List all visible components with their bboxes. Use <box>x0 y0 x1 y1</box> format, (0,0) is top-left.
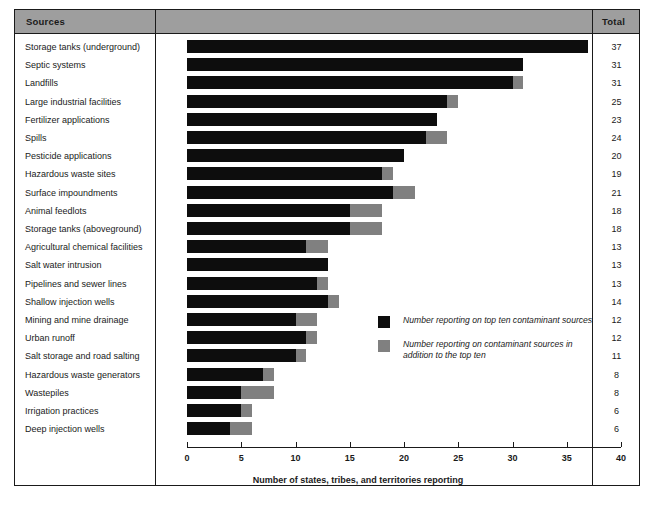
bar-segment-top-ten <box>187 167 382 180</box>
category-label: Large industrial facilities <box>25 97 153 107</box>
category-label: Storage tanks (aboveground) <box>25 224 153 234</box>
plot-area: Number reporting on top ten contaminant … <box>156 34 560 485</box>
bar-segment-additional <box>513 76 524 89</box>
x-axis-tick-label: 10 <box>290 453 300 463</box>
x-axis-title: Number of states, tribes, and territorie… <box>156 475 560 485</box>
category-label: Spills <box>25 133 153 143</box>
bar-segment-additional <box>296 313 318 326</box>
total-value: 8 <box>593 370 640 380</box>
x-axis-tick <box>187 442 188 447</box>
total-value: 20 <box>593 151 640 161</box>
x-axis-tick <box>296 442 297 447</box>
category-label: Landfills <box>25 78 153 88</box>
bar-segment-additional <box>350 222 383 235</box>
bar-segment-top-ten <box>187 386 241 399</box>
bar-segment-additional <box>296 349 307 362</box>
total-value: 13 <box>593 242 640 252</box>
bar-segment-top-ten <box>187 222 350 235</box>
total-value: 31 <box>593 78 640 88</box>
total-value: 21 <box>593 188 640 198</box>
total-value: 6 <box>593 406 640 416</box>
column-header-total: Total <box>602 16 625 27</box>
bar-segment-top-ten <box>187 313 296 326</box>
category-label: Wastepiles <box>25 388 153 398</box>
category-label: Fertilizer applications <box>25 115 153 125</box>
category-label: Surface impoundments <box>25 188 153 198</box>
total-value: 8 <box>593 388 640 398</box>
total-value: 25 <box>593 97 640 107</box>
bar-segment-top-ten <box>187 422 230 435</box>
category-label: Pesticide applications <box>25 151 153 161</box>
total-value: 11 <box>593 351 640 361</box>
x-axis-tick-label: 0 <box>184 453 189 463</box>
bar-segment-top-ten <box>187 349 296 362</box>
bar-segment-additional <box>393 186 415 199</box>
bar-segment-top-ten <box>187 240 306 253</box>
bar-segment-top-ten <box>187 204 350 217</box>
bar-segment-additional <box>447 95 458 108</box>
total-value: 18 <box>593 224 640 234</box>
bar-segment-top-ten <box>187 149 404 162</box>
x-axis-tick-label: 20 <box>399 453 409 463</box>
category-label: Hazardous waste sites <box>25 169 153 179</box>
bar-segment-top-ten <box>187 404 241 417</box>
x-axis-tick-label: 35 <box>562 453 572 463</box>
total-value: 14 <box>593 297 640 307</box>
x-axis-tick <box>350 442 351 447</box>
category-label: Mining and mine drainage <box>25 315 153 325</box>
total-value: 13 <box>593 260 640 270</box>
bar-segment-additional <box>306 331 317 344</box>
total-value: 6 <box>593 424 640 434</box>
legend-label-top-ten: Number reporting on top ten contaminant … <box>403 315 593 326</box>
bar-segment-additional <box>328 295 339 308</box>
category-label: Storage tanks (underground) <box>25 42 153 52</box>
chart-frame: Sources Total Storage tanks (underground… <box>14 9 640 486</box>
category-label: Animal feedlots <box>25 206 153 216</box>
legend-swatch-black-icon <box>378 316 390 328</box>
bar-segment-top-ten <box>187 277 317 290</box>
total-value: 12 <box>593 333 640 343</box>
x-axis-tick <box>458 442 459 447</box>
total-value: 19 <box>593 169 640 179</box>
category-label: Agricultural chemical facilities <box>25 242 153 252</box>
bar-segment-top-ten <box>187 295 328 308</box>
legend-item-additional: Number reporting on contaminant sources … <box>378 339 593 361</box>
category-label: Salt storage and road salting <box>25 351 153 361</box>
legend-label-additional: Number reporting on contaminant sources … <box>403 339 593 361</box>
category-label: Deep injection wells <box>25 424 153 434</box>
x-axis-tick <box>513 442 514 447</box>
bar-segment-top-ten <box>187 113 437 126</box>
bar-segment-additional <box>241 386 274 399</box>
chart-legend: Number reporting on top ten contaminant … <box>378 315 593 374</box>
chart-page: Sources Total Storage tanks (underground… <box>0 0 656 507</box>
bar-segment-additional <box>350 204 383 217</box>
x-axis-line <box>187 447 621 448</box>
category-label: Salt water intrusion <box>25 260 153 270</box>
x-axis-tick <box>241 442 242 447</box>
category-label: Hazardous waste generators <box>25 370 153 380</box>
bar-segment-top-ten <box>187 331 306 344</box>
x-axis-tick <box>404 442 405 447</box>
bar-segment-top-ten <box>187 131 426 144</box>
category-label: Septic systems <box>25 60 153 70</box>
category-label: Urban runoff <box>25 333 153 343</box>
bar-segment-top-ten <box>187 40 588 53</box>
bar-segment-top-ten <box>187 58 523 71</box>
bar-segment-top-ten <box>187 186 393 199</box>
x-axis-tick-label: 30 <box>507 453 517 463</box>
x-axis-tick-label: 5 <box>239 453 244 463</box>
total-value: 18 <box>593 206 640 216</box>
x-axis-tick-label: 15 <box>345 453 355 463</box>
legend-swatch-gray-icon <box>378 340 390 352</box>
legend-item-top-ten: Number reporting on top ten contaminant … <box>378 315 593 326</box>
column-header-sources: Sources <box>26 16 65 27</box>
bar-segment-additional <box>263 368 274 381</box>
x-axis-tick-label: 25 <box>453 453 463 463</box>
category-label: Irrigation practices <box>25 406 153 416</box>
category-label: Pipelines and sewer lines <box>25 279 153 289</box>
bar-segment-additional <box>241 404 252 417</box>
bar-segment-additional <box>426 131 448 144</box>
total-value: 24 <box>593 133 640 143</box>
total-value: 23 <box>593 115 640 125</box>
bar-segment-additional <box>230 422 252 435</box>
